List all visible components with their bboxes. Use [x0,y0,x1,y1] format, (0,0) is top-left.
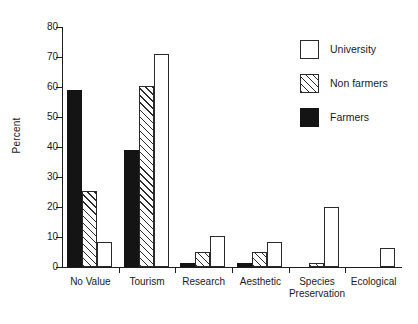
bar-non-farmers [139,86,154,268]
bar-non-farmers [195,252,210,267]
bar-university [324,207,339,267]
y-tick-label: 0 [52,261,58,272]
y-axis-line [62,27,63,268]
legend-item: University [300,40,418,61]
y-tick-label: 70 [47,51,58,62]
y-tick-label: 40 [47,141,58,152]
y-tick-label: 80 [47,21,58,32]
x-tick-mark [119,267,120,273]
x-tick-mark [345,267,346,273]
legend-swatch [300,74,319,93]
x-tick-mark [175,267,176,273]
bar-university [97,242,112,268]
y-axis-title: Percent [11,96,22,176]
bar-farmers [124,150,139,267]
x-tick-mark [289,267,290,273]
legend-swatch [300,40,319,59]
bar-university [380,248,395,268]
chart-legend: UniversityNon farmersFarmers [300,40,418,142]
x-axis-label: Ecological [337,276,410,288]
y-tick-label: 20 [47,201,58,212]
bar-non-farmers [82,191,97,268]
y-tick-label: 30 [47,171,58,182]
bar-non-farmers [309,263,324,268]
x-tick-mark [232,267,233,273]
legend-label: University [330,43,376,56]
bar-non-farmers [252,252,267,267]
bar-farmers [237,263,252,268]
bar-university [154,54,169,267]
legend-label: Farmers [330,111,369,124]
y-tick-label: 60 [47,81,58,92]
legend-item: Farmers [300,108,418,129]
bar-chart: Percent 01020304050607080 No ValueTouris… [0,0,418,324]
bar-university [267,242,282,268]
y-tick-label: 50 [47,111,58,122]
legend-label: Non farmers [330,77,388,90]
legend-item: Non farmers [300,74,418,95]
bar-university [210,236,225,268]
bar-farmers [180,263,195,268]
bar-farmers [67,90,82,267]
legend-swatch [300,108,319,127]
y-tick-label: 10 [47,231,58,242]
